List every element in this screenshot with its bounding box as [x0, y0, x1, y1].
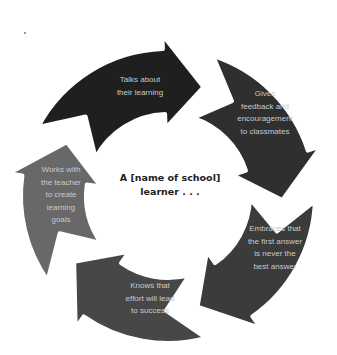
segment-label-gives-feedback: Gives feedback and encouragement to clas… [220, 88, 310, 138]
segment-label-embraces-first-answer: Embraces that the first answer is never … [230, 223, 320, 273]
stray-dot [24, 32, 26, 34]
center-label: A [name of school] learner . . . [105, 171, 235, 199]
segment-label-works-with-teacher: Works with the teacher to create learnin… [30, 164, 92, 227]
segment-label-talks-about-learning: Talks about their learning [100, 74, 180, 99]
segment-label-knows-effort: Knows that effort will lead to success [110, 280, 190, 318]
